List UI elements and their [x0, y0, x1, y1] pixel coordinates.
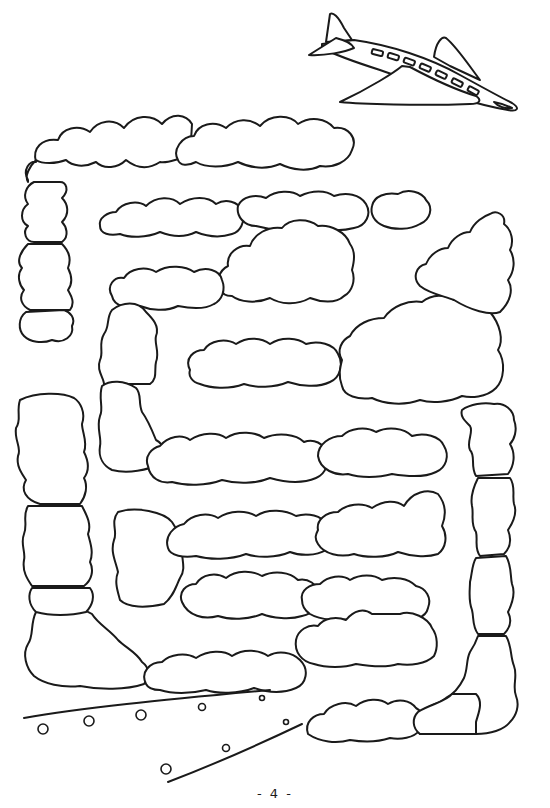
airplane-icon: [309, 14, 517, 111]
page-number: - 4 -: [0, 786, 550, 801]
runway-icon: [24, 690, 302, 782]
cloud-maze: [0, 0, 550, 808]
maze-clouds: [16, 116, 518, 742]
